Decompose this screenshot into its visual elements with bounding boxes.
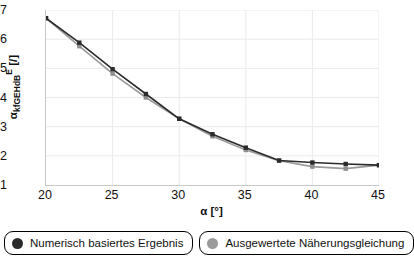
data-point-marker: [210, 132, 214, 136]
x-axis-title: α [°]: [45, 205, 378, 217]
data-point-marker: [177, 117, 181, 121]
x-axis-tick-label: 45: [358, 188, 398, 202]
plot-area: [45, 10, 379, 186]
data-point-marker: [144, 92, 148, 96]
data-point-marker: [46, 16, 48, 20]
chart-legend: Numerisch basiertes Ergebnis Ausgewertet…: [4, 231, 386, 255]
x-axis-tick-label: 40: [291, 188, 331, 202]
data-point-marker: [77, 40, 81, 44]
legend-item-numerisch[interactable]: Numerisch basiertes Ergebnis: [4, 231, 193, 255]
x-axis-tick-label: 30: [158, 188, 198, 202]
data-point-marker: [110, 71, 114, 75]
data-point-marker: [244, 145, 248, 149]
y-axis-tick-label: 3,7: [0, 4, 7, 16]
data-point-marker: [377, 163, 379, 167]
data-point-marker: [277, 158, 281, 162]
legend-marker-icon: [12, 238, 23, 249]
x-axis-tick-label: 25: [92, 188, 132, 202]
x-axis-tick-label: 20: [25, 188, 65, 202]
series-line: [46, 18, 379, 165]
legend-item-label: Numerisch basiertes Ergebnis: [30, 237, 183, 249]
data-point-marker: [344, 162, 348, 166]
y-axis-tick-label: 3,1: [0, 179, 7, 191]
data-series-layer: [46, 10, 379, 185]
data-point-marker: [310, 160, 314, 164]
series-line: [46, 18, 379, 169]
y-axis-title: αkfGEHdBE [/]: [4, 27, 22, 147]
data-point-marker: [110, 67, 114, 71]
legend-item-naeherung[interactable]: Ausgewertete Näherungsgleichung: [199, 231, 414, 255]
x-axis-tick-label: 35: [225, 188, 265, 202]
data-point-marker: [310, 164, 314, 168]
legend-item-label: Ausgewertete Näherungsgleichung: [225, 237, 404, 249]
data-point-marker: [344, 166, 348, 170]
y-axis-tick-label: 3,2: [0, 150, 7, 162]
legend-marker-icon: [207, 238, 218, 249]
